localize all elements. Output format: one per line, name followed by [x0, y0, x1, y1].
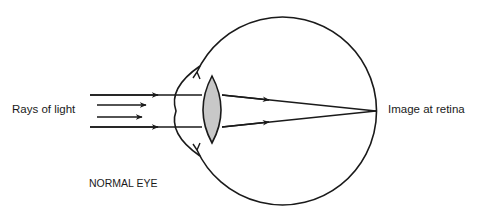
- rays-of-light-label: Rays of light: [12, 103, 75, 115]
- sclera-top-hook: [193, 72, 200, 79]
- diagram-title: NORMAL EYE: [89, 177, 157, 189]
- lens: [203, 76, 221, 143]
- incoming-rays: [90, 95, 202, 127]
- eyeball-outline: [197, 17, 377, 205]
- cornea: [174, 66, 200, 156]
- image-at-retina-label: Image at retina: [388, 103, 465, 115]
- sclera-bottom-hook: [193, 143, 200, 150]
- focal-point: [375, 110, 377, 112]
- refracted-rays: [222, 95, 376, 127]
